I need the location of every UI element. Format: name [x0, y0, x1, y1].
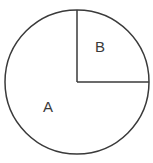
region-label-b: B	[95, 38, 105, 55]
region-label-a: A	[43, 98, 53, 115]
circle-sector-diagram: A B	[0, 0, 153, 163]
figure-canvas: A B	[0, 0, 153, 163]
